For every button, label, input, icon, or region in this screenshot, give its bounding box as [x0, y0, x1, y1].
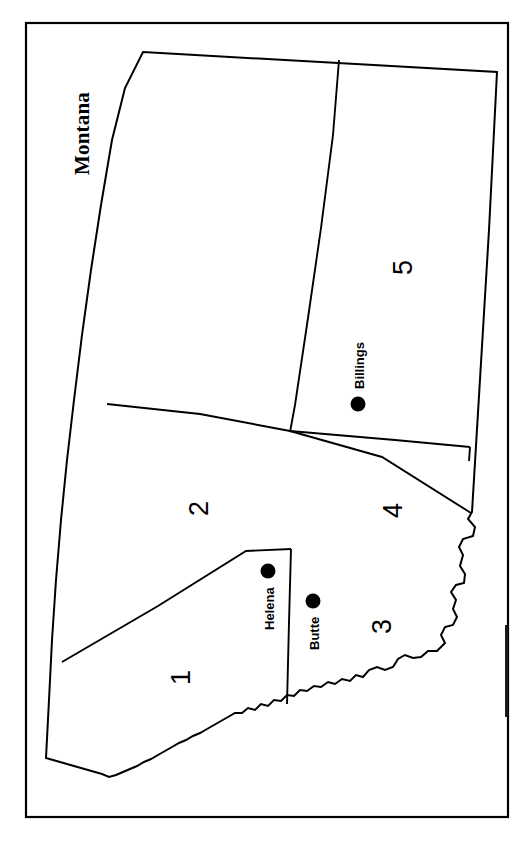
- map-page: Montana 1 2 3 4 5 Helena Butte Billings: [0, 0, 515, 860]
- region-label-4: 4: [380, 503, 407, 518]
- divider-region-4-5: [469, 447, 470, 461]
- montana-state-outline: [46, 52, 497, 777]
- region-label-3: 3: [369, 619, 396, 634]
- city-dot-helena: [261, 564, 276, 579]
- page-title: Montana: [72, 92, 93, 175]
- city-dot-butte: [306, 594, 321, 609]
- city-label-butte: Butte: [308, 617, 321, 650]
- region-label-5: 5: [390, 260, 417, 275]
- scan-edge-artifact: [505, 625, 508, 717]
- city-label-billings: Billings: [353, 342, 366, 389]
- region-label-1: 1: [168, 670, 195, 685]
- city-label-helena: Helena: [263, 587, 276, 630]
- region-label-2: 2: [186, 501, 213, 516]
- city-dot-billings: [351, 397, 366, 412]
